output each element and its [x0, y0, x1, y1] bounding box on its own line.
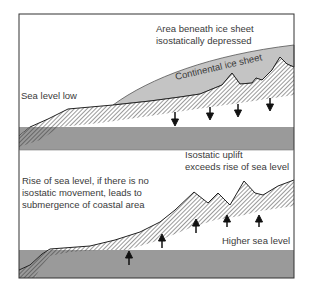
rise-label-line2: isostatic movement, leads to — [22, 187, 142, 198]
ice-label-line1: Area beneath ice sheet — [156, 23, 254, 34]
rise-label-line3: submergence of coastal area — [22, 199, 145, 210]
top-panel: Area beneath ice sheet isostatically dep… — [19, 23, 294, 150]
sea-low — [19, 127, 294, 150]
higher-sea-level-label: Higher sea level — [222, 235, 290, 246]
sea-level-low-label: Sea level low — [21, 90, 77, 101]
uplift-label-line1: Isostatic uplift — [185, 149, 243, 160]
rise-label-line1: Rise of sea level, if there is no — [22, 175, 149, 186]
ice-label-line2: isostatically depressed — [156, 35, 252, 46]
isostasy-diagram: Area beneath ice sheet isostatically dep… — [0, 0, 309, 290]
sea-high — [19, 250, 294, 278]
bottom-panel: Isostatic uplift exceeds rise of sea lev… — [19, 149, 294, 278]
uplift-label-line2: exceeds rise of sea level — [185, 161, 289, 172]
